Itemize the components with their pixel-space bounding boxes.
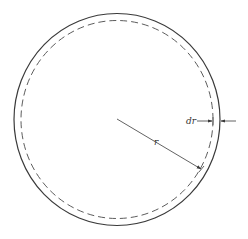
radius-label: r xyxy=(154,137,159,147)
ring-diagram: r dr xyxy=(0,0,248,239)
inner-dashed-circle xyxy=(21,21,213,219)
radius-arrow xyxy=(117,119,201,169)
thickness-label: dr xyxy=(186,116,197,126)
